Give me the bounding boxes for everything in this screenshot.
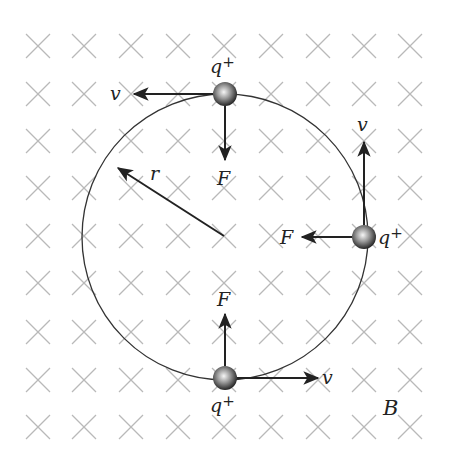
field-cross-icon (166, 415, 190, 439)
charge-label-top: q+ (210, 53, 235, 77)
field-cross-icon (72, 320, 96, 344)
field-cross-icon (119, 34, 143, 58)
field-cross-icon (306, 415, 330, 439)
field-cross-icon (259, 415, 283, 439)
field-cross-icon (72, 368, 96, 392)
field-cross-icon (119, 415, 143, 439)
field-cross-icon (26, 129, 50, 153)
field-cross-icon (72, 415, 96, 439)
field-cross-icon (398, 82, 422, 106)
field-cross-icon (26, 271, 50, 295)
field-cross-icon (398, 320, 422, 344)
charge-right: v F q+ (279, 113, 403, 249)
velocity-label-bottom: v (322, 366, 333, 388)
field-cross-icon (166, 34, 190, 58)
charge-top: v F q+ (110, 53, 237, 189)
field-cross-icon (166, 224, 190, 248)
field-cross-icon (119, 129, 143, 153)
field-cross-icon (352, 82, 376, 106)
field-cross-icon (166, 320, 190, 344)
field-cross-icon (352, 320, 376, 344)
charge-label-bottom: q+ (210, 392, 235, 416)
charge-label-right: q+ (378, 224, 403, 248)
field-cross-icon (26, 176, 50, 200)
field-cross-icon (72, 176, 96, 200)
field-cross-icon (352, 368, 376, 392)
field-cross-icon (259, 368, 283, 392)
field-cross-icon (352, 34, 376, 58)
field-cross-icon (306, 34, 330, 58)
field-cross-icon (306, 129, 330, 153)
force-label-top: F (216, 167, 231, 189)
field-cross-icon (259, 82, 283, 106)
field-cross-icon (72, 129, 96, 153)
field-cross-icon (398, 368, 422, 392)
velocity-label-top: v (110, 82, 121, 104)
field-cross-icon (259, 34, 283, 58)
charge-bottom: v F q+ (210, 288, 333, 416)
field-cross-icon (72, 34, 96, 58)
field-cross-icon (352, 271, 376, 295)
field-cross-icon (26, 368, 50, 392)
field-cross-icon (306, 82, 330, 106)
field-cross-icon (26, 415, 50, 439)
field-cross-icon (166, 271, 190, 295)
field-cross-icon (119, 224, 143, 248)
field-cross-icon (259, 320, 283, 344)
field-cross-icon (212, 415, 236, 439)
field-cross-icon (398, 271, 422, 295)
field-cross-icon (119, 320, 143, 344)
field-cross-icon (398, 34, 422, 58)
field-cross-icon (26, 224, 50, 248)
field-cross-icon (306, 320, 330, 344)
magnetic-field-diagram: r v F q+ v F q+ v F q+ B (0, 0, 451, 457)
field-cross-icon (26, 34, 50, 58)
field-cross-icon (259, 176, 283, 200)
field-cross-icon (119, 176, 143, 200)
field-cross-icon (72, 82, 96, 106)
field-label-B: B (382, 396, 398, 420)
radius-arrow (118, 168, 224, 236)
field-cross-icon (352, 415, 376, 439)
velocity-label-right: v (357, 113, 368, 135)
field-cross-icon (306, 271, 330, 295)
charge-ball-top (213, 82, 237, 106)
field-cross-icon (72, 224, 96, 248)
force-label-bottom: F (216, 288, 231, 310)
force-label-right: F (279, 226, 294, 248)
field-cross-icon (166, 129, 190, 153)
charge-ball-right (352, 225, 376, 249)
field-cross-icon (259, 271, 283, 295)
field-cross-icon (26, 82, 50, 106)
field-cross-icon (166, 176, 190, 200)
field-cross-icon (259, 129, 283, 153)
field-cross-icon (398, 415, 422, 439)
field-cross-icon (119, 368, 143, 392)
field-cross-icon (398, 176, 422, 200)
field-cross-icon (119, 271, 143, 295)
field-cross-icon (26, 320, 50, 344)
charge-ball-bottom (213, 366, 237, 390)
field-cross-icon (398, 129, 422, 153)
radius-label: r (150, 162, 161, 184)
field-cross-icon (306, 176, 330, 200)
